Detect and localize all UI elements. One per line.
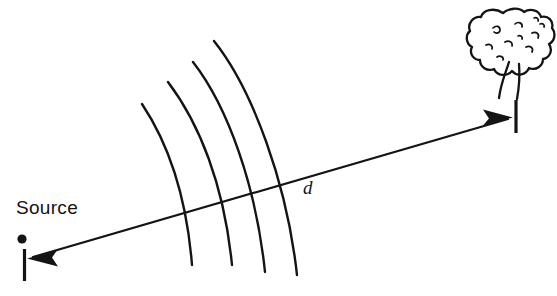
distance-label: d <box>303 178 313 197</box>
arrowhead-left-icon <box>27 251 58 267</box>
source-point <box>17 234 26 243</box>
diagram-canvas <box>0 0 557 296</box>
source-label: Source <box>16 198 78 217</box>
wavefront-arcs <box>142 41 297 275</box>
tree-icon <box>467 9 555 99</box>
distance-arrow-group <box>27 110 513 267</box>
wavefront-diagram: Source d <box>0 0 557 296</box>
wavefront-arc-1 <box>142 104 192 265</box>
distance-line <box>33 119 508 257</box>
wavefront-arc-4 <box>214 41 297 275</box>
arrowhead-right-icon <box>483 110 513 126</box>
